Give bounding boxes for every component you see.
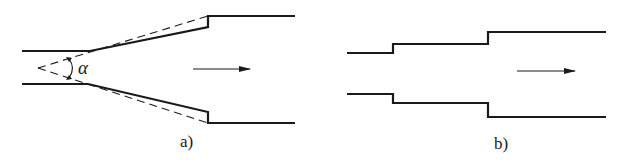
- figure-a-label: a): [180, 132, 193, 151]
- diffuser-top-wall: [22, 16, 295, 51]
- angle-arc: [69, 59, 73, 78]
- diagram-canvas: α a) b): [0, 0, 629, 164]
- stepped-top-wall: [347, 32, 606, 53]
- diffuser-bottom-wall: [22, 84, 295, 123]
- diffuser-bottom-dashed-extension: [38, 68, 208, 123]
- diffuser-top-dashed-extension: [38, 16, 208, 68]
- figure-b-stepped-expansion: b): [347, 32, 606, 153]
- figure-b-label: b): [494, 134, 508, 153]
- stepped-bottom-wall: [347, 94, 606, 117]
- angle-alpha-label: α: [78, 57, 89, 78]
- figure-a-diffuser: α a): [22, 16, 295, 151]
